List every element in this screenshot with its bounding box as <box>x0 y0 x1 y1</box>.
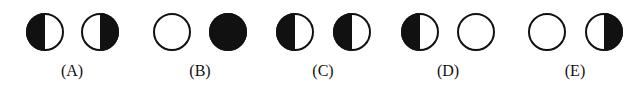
moon-phase-icon-right-half-dark <box>585 13 623 51</box>
option-label-d: (D) <box>418 62 478 80</box>
moon-phase-icon-left-half-dark <box>276 13 314 51</box>
option-label-b: (B) <box>170 62 230 80</box>
moon-phase-icon-full-dark <box>209 13 247 51</box>
moon-phase-icon-left-half-dark <box>401 13 439 51</box>
moon-phase-options-figure: (A) (B) (C) (D) (E) <box>0 0 640 85</box>
moon-phase-icon-full-light <box>528 13 566 51</box>
option-label-c: (C) <box>293 62 353 80</box>
moon-phase-icon-full-light <box>153 13 191 51</box>
moon-phase-icon-left-half-dark <box>26 13 64 51</box>
moon-phase-icon-right-half-dark <box>81 13 119 51</box>
option-label-a: (A) <box>42 62 102 80</box>
option-label-e: (E) <box>545 62 605 80</box>
moon-phase-icon-left-half-dark <box>333 13 371 51</box>
moon-phase-icon-full-light <box>457 13 495 51</box>
